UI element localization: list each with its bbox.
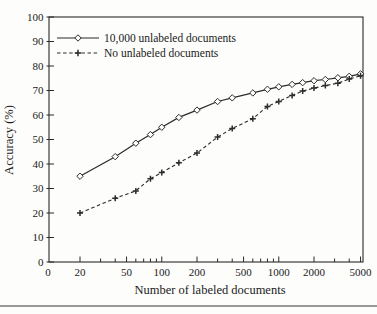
- y-tick-label: 10: [33, 231, 45, 243]
- x-axis-title: Number of labeled documents: [135, 283, 286, 297]
- series-0-diamond-marker: [335, 75, 341, 81]
- y-axis-title: Accuracy (%): [2, 105, 16, 175]
- accuracy-vs-labeled-documents-chart: 0102030405060708090100020501002005001000…: [0, 0, 377, 314]
- series-1-plus-marker: [276, 99, 282, 105]
- series-1-plus-marker: [250, 116, 256, 122]
- y-tick-label: 90: [33, 35, 45, 47]
- series-1-plus-marker: [300, 88, 306, 94]
- series-1-plus-marker: [159, 170, 165, 176]
- series-0-diamond-marker: [214, 98, 220, 104]
- x-tick-label: 100: [154, 266, 171, 278]
- y-tick-label: 40: [33, 158, 45, 170]
- chart-legend: 10,000 unlabeled documents No unlabeled …: [57, 32, 236, 59]
- series-0-diamond-marker: [299, 79, 305, 85]
- x-tick-label: 500: [235, 266, 252, 278]
- y-tick-label: 80: [33, 60, 45, 72]
- y-tick-label: 0: [38, 256, 44, 268]
- series-1-plus-marker: [229, 125, 235, 131]
- series-0-diamond-marker: [147, 131, 153, 137]
- x-origin-label: 0: [45, 266, 51, 278]
- y-tick-label: 20: [33, 207, 45, 219]
- y-tick-label: 50: [33, 133, 45, 145]
- series-0-diamond-marker: [77, 173, 83, 179]
- y-tick-label: 30: [33, 182, 45, 194]
- series-0-diamond-marker: [264, 86, 270, 92]
- series-1-plus-marker: [335, 80, 341, 86]
- series-0-diamond-marker: [229, 95, 235, 101]
- series-0-diamond-marker: [311, 78, 317, 84]
- legend-diamond-marker-icon: [75, 35, 81, 41]
- x-tick-label: 200: [189, 266, 206, 278]
- legend-label-10000-unlabeled: 10,000 unlabeled documents: [104, 32, 236, 45]
- x-tick-label: 20: [75, 266, 87, 278]
- series-0-diamond-marker: [159, 124, 165, 130]
- series-1-plus-marker: [289, 92, 295, 98]
- series-1-plus-marker: [311, 85, 317, 91]
- series-0-diamond-marker: [194, 107, 200, 113]
- x-tick-label: 50: [121, 266, 133, 278]
- scanned-figure-page: 0102030405060708090100020501002005001000…: [0, 0, 377, 314]
- series-0-line: [80, 74, 361, 177]
- series-1-plus-marker: [176, 160, 182, 166]
- series-0-diamond-marker: [133, 140, 139, 146]
- series-0-diamond-marker: [276, 84, 282, 90]
- series-1-plus-marker: [112, 195, 118, 201]
- series-0-diamond-marker: [176, 114, 182, 120]
- page-divider-line: [0, 305, 377, 307]
- series-1-plus-marker: [322, 83, 328, 89]
- y-tick-label: 100: [27, 11, 44, 23]
- x-tick-label: 5000: [350, 266, 373, 278]
- series-0-diamond-marker: [112, 153, 118, 159]
- series-1-line: [80, 76, 361, 213]
- legend-plus-marker-icon: [75, 50, 81, 56]
- y-tick-label: 70: [33, 84, 45, 96]
- y-tick-label: 60: [33, 109, 45, 121]
- series-1-plus-marker: [77, 210, 83, 216]
- series-0-diamond-marker: [250, 90, 256, 96]
- x-tick-label: 1000: [268, 266, 291, 278]
- series-0-diamond-marker: [289, 81, 295, 87]
- series-0-diamond-marker: [322, 76, 328, 82]
- legend-label-no-unlabeled: No unlabeled documents: [104, 47, 219, 59]
- x-tick-label: 2000: [303, 266, 326, 278]
